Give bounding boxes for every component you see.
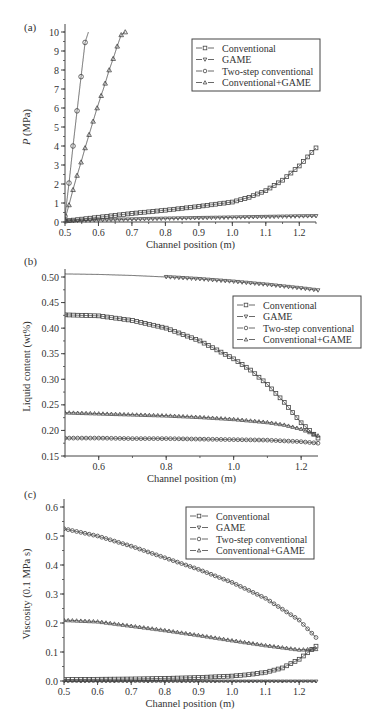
series-game	[65, 274, 320, 292]
y-tick-label: 7	[54, 84, 59, 95]
x-tick-label: 0.5	[58, 686, 71, 697]
y-tick-label: 0.25	[42, 399, 60, 410]
y-tick-label: 2	[54, 179, 59, 190]
x-tick-label: 1.0	[227, 461, 240, 472]
y-tick-label: 0.3	[46, 589, 59, 600]
legend-label: Conventional+GAME	[222, 77, 311, 88]
x-tick-label: 1.2	[293, 686, 306, 697]
legend: ConventionalGAMETwo-step conventionalCon…	[192, 39, 320, 91]
chart-panel-b: (b)0.60.81.01.20.150.200.250.300.350.400…	[0, 255, 381, 487]
x-tick-label: 0.6	[91, 686, 104, 697]
y-tick-label: 4	[54, 141, 59, 152]
series-conventional	[63, 146, 318, 223]
y-tick-label: 5	[54, 122, 59, 133]
x-tick-label: 0.7	[126, 227, 139, 238]
x-tick-label: 0.6	[92, 227, 105, 238]
y-tick-label: 0.35	[42, 348, 60, 359]
x-axis-title: Channel position (m)	[145, 698, 235, 710]
y-axis-title: Viscosity (0.1 MPa s)	[21, 548, 33, 639]
x-tick-label: 1.0	[226, 686, 239, 697]
y-tick-label: 0.0	[46, 676, 59, 687]
x-tick-label: 0.9	[193, 227, 206, 238]
legend-label: Two-step conventional	[263, 323, 354, 334]
y-tick-label: 0.30	[42, 374, 60, 385]
x-tick-label: 0.8	[160, 461, 173, 472]
chart-panel-c: (c)0.50.60.70.80.91.01.11.20.00.10.20.30…	[0, 487, 381, 727]
series-conventional-game	[63, 411, 320, 437]
legend-label: Conventional	[216, 511, 270, 522]
y-tick-label: 0.1	[46, 647, 59, 658]
legend: ConventionalGAMETwo-step conventionalCon…	[186, 507, 314, 559]
legend-label: GAME	[263, 311, 292, 322]
chart-a-svg: (a)0.50.60.70.80.91.01.11.2012345678910C…	[0, 0, 381, 255]
x-tick-label: 1.1	[260, 227, 273, 238]
y-tick-label: 0.15	[42, 451, 60, 462]
y-tick-label: 1	[54, 198, 59, 209]
legend-label: GAME	[216, 522, 245, 533]
y-tick-label: 10	[49, 27, 59, 38]
x-axis-title: Channel position (m)	[146, 239, 236, 251]
x-tick-label: 1.2	[295, 461, 308, 472]
x-tick-label: 0.5	[59, 227, 72, 238]
panel-label: (b)	[24, 255, 37, 268]
y-tick-label: 0.6	[46, 502, 59, 513]
legend-label: Two-step conventional	[222, 66, 313, 77]
legend-label: Conventional+GAME	[263, 334, 352, 345]
y-tick-label: 0.45	[42, 297, 60, 308]
legend-label: Conventional+GAME	[216, 545, 305, 556]
chart-panel-a: (a)0.50.60.70.80.91.01.11.2012345678910C…	[0, 0, 381, 255]
legend-label: GAME	[222, 54, 251, 65]
x-tick-label: 1.2	[293, 227, 306, 238]
y-tick-label: 8	[54, 65, 59, 76]
panel-label: (c)	[24, 488, 37, 501]
x-tick-label: 1.1	[259, 686, 272, 697]
y-axis-title: P (MPa)	[21, 109, 33, 146]
y-tick-label: 6	[54, 103, 59, 114]
legend-label: Two-step conventional	[216, 534, 307, 545]
y-tick-label: 3	[54, 160, 59, 171]
y-axis-title: Liquid content (wt%)	[21, 321, 33, 412]
legend: ConventionalGAMETwo-step conventionalCon…	[233, 296, 361, 348]
series-two-step-conventional	[63, 436, 320, 445]
x-tick-label: 0.9	[192, 686, 205, 697]
y-tick-label: 0.5	[46, 531, 59, 542]
x-tick-label: 1.0	[226, 227, 239, 238]
series-conventional-game	[63, 30, 128, 221]
legend-label: Conventional	[263, 300, 317, 311]
series-two-step-conventional	[63, 32, 89, 219]
y-tick-label: 0.2	[46, 618, 59, 629]
series-conventional-game	[62, 618, 318, 651]
y-tick-label: 0	[54, 217, 59, 228]
y-tick-label: 9	[54, 46, 59, 57]
y-tick-label: 0.50	[42, 272, 60, 283]
x-tick-label: 0.6	[92, 461, 105, 472]
panel-label: (a)	[24, 21, 37, 34]
y-tick-label: 0.40	[42, 323, 60, 334]
x-tick-label: 0.8	[159, 686, 172, 697]
x-axis-title: Channel position (m)	[147, 473, 237, 485]
chart-c-svg: (c)0.50.60.70.80.91.01.11.20.00.10.20.30…	[0, 487, 381, 727]
series-conventional	[62, 644, 318, 681]
x-tick-label: 0.8	[159, 227, 172, 238]
chart-b-svg: (b)0.60.81.01.20.150.200.250.300.350.400…	[0, 255, 381, 487]
y-tick-label: 0.4	[46, 560, 59, 571]
x-tick-label: 0.7	[125, 686, 138, 697]
y-tick-label: 0.20	[42, 425, 60, 436]
legend-label: Conventional	[222, 43, 276, 54]
